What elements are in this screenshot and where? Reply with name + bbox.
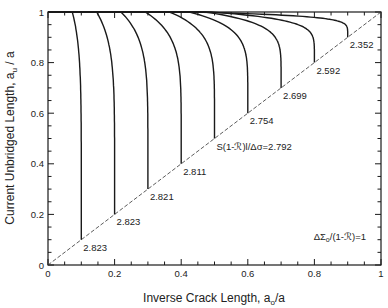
curve-end-label: 2.754 — [250, 115, 274, 126]
x-axis-title: Inverse Crack Length, ao/a — [143, 291, 285, 307]
annotation-delta-sigma: ΔΣo/(1-ℛ)=1 — [314, 231, 366, 243]
curve-end-label: S(1-ℛ)l/Δσ=2.792 — [217, 141, 292, 152]
y-tick-label: 1 — [39, 7, 44, 18]
curve-9 — [48, 12, 348, 37]
curve-7 — [48, 12, 281, 88]
y-tick-label: 0.6 — [31, 108, 44, 119]
curve-labels: 2.8232.8232.8212.811S(1-ℛ)l/Δσ=2.7922.75… — [83, 39, 373, 252]
curve-end-label: 2.352 — [350, 39, 374, 50]
data-curves — [48, 12, 348, 240]
x-tick-label: 0.2 — [108, 268, 121, 279]
x-tick-label: 0.8 — [308, 268, 321, 279]
y-tick-label: 0 — [39, 260, 44, 271]
curve-end-label: 2.821 — [150, 191, 174, 202]
curve-end-label: 2.699 — [283, 90, 307, 101]
curve-end-label: 2.592 — [316, 65, 340, 76]
y-tick-label: 0.2 — [31, 209, 44, 220]
curve-3 — [48, 12, 148, 189]
y-tick-label: 0.4 — [31, 158, 44, 169]
curve-5 — [48, 12, 215, 139]
x-tick-label: 0.6 — [241, 268, 254, 279]
x-tick-label: 0 — [45, 268, 50, 279]
curve-end-label: 2.823 — [83, 242, 107, 253]
y-tick-label: 0.8 — [31, 57, 44, 68]
chart: 00.20.40.60.8100.20.40.60.81 2.8232.8232… — [0, 0, 388, 308]
curve-1 — [48, 12, 81, 240]
curve-end-label: 2.823 — [117, 216, 141, 227]
x-tick-label: 0.4 — [175, 268, 188, 279]
curve-end-label: 2.811 — [183, 166, 206, 177]
x-tick-label: 1 — [378, 268, 383, 279]
y-axis-title: Current Unbridged Length, au / a — [3, 51, 19, 225]
